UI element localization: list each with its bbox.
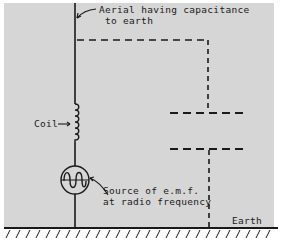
source-label-line2: at radio frequency — [103, 196, 211, 207]
source-label-line1: Source of e.m.f. — [103, 185, 199, 196]
coil-label: Coil — [34, 118, 58, 129]
aerial-label-line2: to earth — [105, 15, 153, 26]
earth-ground-icon — [4, 228, 278, 238]
aerial-circuit-diagram: Aerial having capacitance to earth Coil … — [0, 0, 282, 245]
earth-label: Earth — [232, 215, 262, 226]
aerial-label-line1: Aerial having capacitance — [99, 4, 250, 15]
